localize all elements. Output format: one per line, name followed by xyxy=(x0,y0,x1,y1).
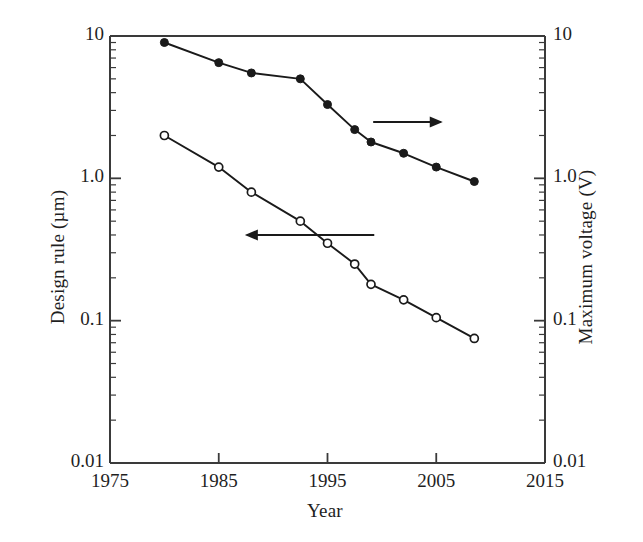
data-point-filled xyxy=(400,149,408,157)
data-point-filled xyxy=(351,126,359,134)
x-axis-title: Year xyxy=(255,500,395,522)
left-tick-label: 10 xyxy=(36,23,104,45)
right-tick-label: 1.0 xyxy=(553,165,621,187)
x-tick-label: 1985 xyxy=(179,470,259,492)
series-max-voltage xyxy=(160,39,478,186)
data-point-filled xyxy=(324,101,332,109)
left-tick-label: 1.0 xyxy=(36,165,104,187)
data-point-filled xyxy=(247,69,255,77)
chart-annotations xyxy=(245,117,443,241)
right-tick-label: 0.01 xyxy=(553,450,621,472)
right-tick-label: 0.1 xyxy=(553,308,621,330)
data-point-filled xyxy=(367,138,375,146)
data-point-open xyxy=(432,314,440,322)
series-design-rule xyxy=(160,131,478,342)
data-point-filled xyxy=(296,75,304,83)
right-tick-label: 10 xyxy=(553,23,621,45)
data-point-open xyxy=(324,239,332,247)
bottom-axis-ticks xyxy=(110,453,545,463)
arrow-to-left-axis-head xyxy=(245,230,258,241)
left-axis-ticks xyxy=(110,36,121,463)
x-tick-label: 1995 xyxy=(288,470,368,492)
data-point-open xyxy=(160,131,168,139)
data-point-open xyxy=(247,188,255,196)
data-point-filled xyxy=(160,39,168,47)
x-tick-label: 1975 xyxy=(70,470,150,492)
Maximum voltage (V)-line xyxy=(164,43,474,182)
x-tick-label: 2015 xyxy=(505,470,585,492)
data-point-open xyxy=(296,217,304,225)
data-point-filled xyxy=(432,163,440,171)
data-point-filled xyxy=(470,178,478,186)
data-point-open xyxy=(400,296,408,304)
data-point-open xyxy=(367,280,375,288)
data-point-open xyxy=(351,260,359,268)
data-point-filled xyxy=(215,59,223,67)
chart-figure: Design rule (µm) Maximum voltage (V) Yea… xyxy=(0,0,643,542)
data-point-open xyxy=(470,334,478,342)
x-tick-label: 2005 xyxy=(396,470,476,492)
left-tick-label: 0.1 xyxy=(36,308,104,330)
data-point-open xyxy=(215,163,223,171)
arrow-to-right-axis-head xyxy=(430,117,443,128)
Design rule (µm)-line xyxy=(164,135,474,338)
right-axis-ticks xyxy=(534,36,545,463)
left-tick-label: 0.01 xyxy=(36,450,104,472)
